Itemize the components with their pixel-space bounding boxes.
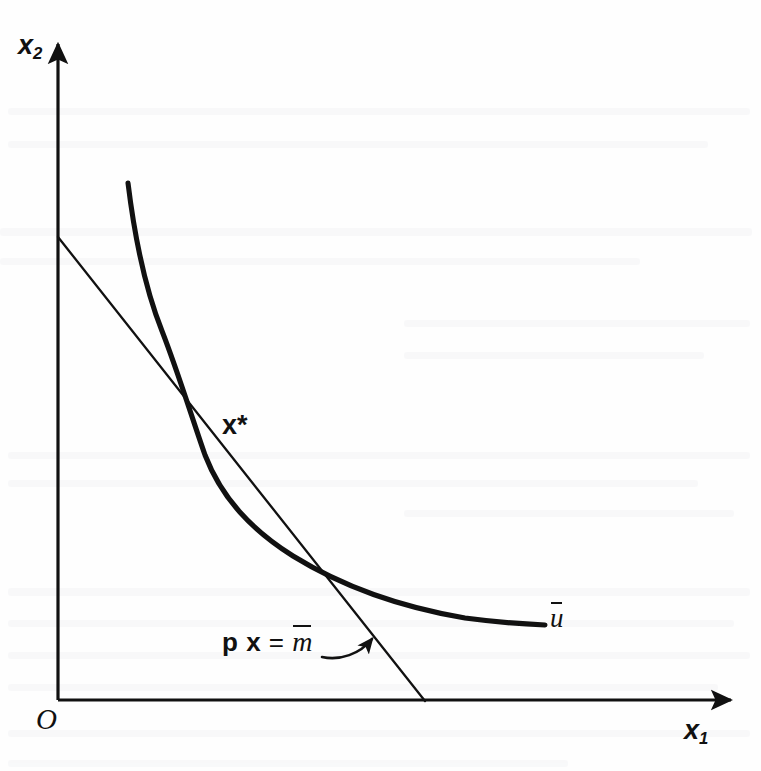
budget-line-callout-arrow xyxy=(322,639,372,658)
origin-label: O xyxy=(36,705,57,734)
indifference-curve-label-text: u xyxy=(550,605,564,632)
y-axis-label-text: x xyxy=(18,30,33,60)
y-axis-label-subscript: 2 xyxy=(33,44,42,63)
optimum-point-label: x* xyxy=(222,412,248,439)
budget-line-label: p x = m xyxy=(222,628,313,656)
y-axis-label: x2 xyxy=(18,32,42,63)
x-axis-label: x1 xyxy=(684,717,708,748)
budget-line-label-income: m xyxy=(292,628,313,656)
indifference-curve-label: u xyxy=(550,605,564,632)
x-axis-label-text: x xyxy=(684,715,699,745)
figure-container: x2 x1 O x* u p x = m xyxy=(0,0,761,771)
diagram-canvas xyxy=(0,0,761,771)
budget-line-label-quantity: x xyxy=(246,627,261,657)
budget-line-label-operator: = xyxy=(269,627,285,657)
x-axis-label-subscript: 1 xyxy=(699,729,708,748)
budget-line-label-price: p xyxy=(222,627,238,657)
